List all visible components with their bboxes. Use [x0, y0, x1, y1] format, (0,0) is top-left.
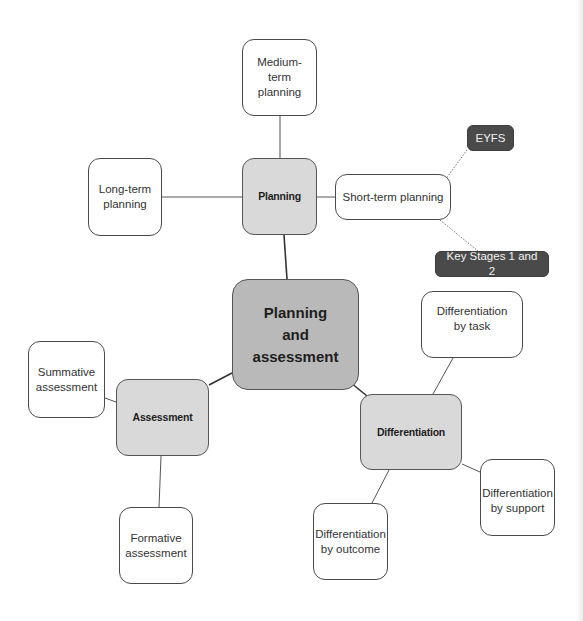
node-label: EYFS: [475, 131, 505, 146]
node-label: Short-term planning: [343, 190, 444, 205]
node-planning-hub: Planning: [242, 158, 317, 235]
node-label: Key Stages 1 and 2: [442, 249, 542, 279]
node-differentiation-by-task: Differentiation by task: [421, 291, 523, 358]
node-label: Summative assessment: [36, 365, 97, 395]
node-assessment-hub: Assessment: [116, 379, 209, 456]
node-formative-assessment: Formative assessment: [119, 507, 193, 584]
node-label: Planning and assessment: [253, 302, 339, 368]
node-label: Long-term planning: [99, 182, 151, 212]
node-short-term-planning: Short-term planning: [335, 174, 451, 220]
node-differentiation-by-support: Differentiation by support: [480, 459, 555, 536]
node-label: Differentiation by support: [482, 486, 553, 516]
node-medium-term-planning: Medium-term planning: [242, 39, 317, 116]
node-center-planning-and-assessment: Planning and assessment: [232, 279, 359, 390]
node-long-term-planning: Long-term planning: [88, 158, 162, 236]
node-label: Differentiation by task: [437, 304, 508, 334]
node-summative-assessment: Summative assessment: [28, 341, 105, 418]
node-label: Differentiation by outcome: [315, 527, 386, 557]
node-key-stages: Key Stages 1 and 2: [435, 251, 549, 277]
node-label: Planning: [258, 189, 301, 204]
node-label: Assessment: [133, 410, 193, 425]
node-label: Differentiation: [377, 425, 445, 440]
node-differentiation-by-outcome: Differentiation by outcome: [313, 503, 388, 580]
node-label: Formative assessment: [125, 531, 186, 561]
node-differentiation-hub: Differentiation: [360, 394, 462, 470]
node-label: Medium-term planning: [247, 55, 312, 100]
node-eyfs: EYFS: [467, 125, 514, 151]
